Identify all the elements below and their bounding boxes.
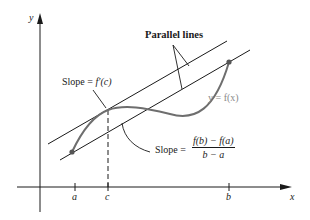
curve-label: y = f(x): [208, 92, 239, 103]
secant-slope-prefix: Slope =: [155, 144, 186, 155]
tangent-slope-prefix: Slope =: [62, 76, 95, 87]
tangent-slope-expr: f′(c): [95, 76, 111, 87]
y-axis-label: y: [29, 12, 33, 23]
secant-slope-numerator: f(b) − f(a): [192, 135, 235, 148]
secant-slope-leader: [122, 123, 150, 152]
endpoint-b: [226, 59, 231, 64]
tangent-slope-label: Slope = f′(c): [62, 76, 112, 87]
tick-label-a: a: [72, 191, 77, 202]
parallel-lines-label: Parallel lines: [145, 29, 203, 40]
x-axis-label: x: [290, 191, 294, 202]
endpoint-a: [69, 149, 74, 154]
secant-slope-denominator: b − a: [202, 148, 224, 160]
tangent-slope-leader: [93, 90, 106, 108]
tick-label-b: b: [226, 191, 231, 202]
tangent-line: [48, 41, 227, 144]
secant-slope-fraction: f(b) − f(a) b − a: [192, 135, 235, 160]
tick-label-c: c: [105, 191, 109, 202]
y-axis-arrowhead: [37, 13, 43, 24]
mean-value-theorem-figure: y x a c b Parallel lines Slope = f′(c) y…: [0, 0, 310, 220]
x-axis-arrowhead: [280, 184, 292, 190]
